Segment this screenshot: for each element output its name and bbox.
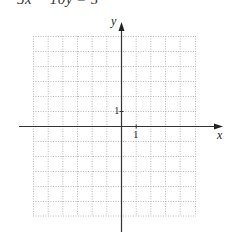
coordinate-grid [0, 0, 233, 238]
x-tick-label-1: 1 [133, 128, 139, 140]
y-tick-label-1: 1 [114, 104, 120, 116]
x-axis-label: x [217, 128, 222, 143]
y-axis-arrow-icon [119, 22, 125, 31]
y-axis-label: y [111, 14, 116, 29]
